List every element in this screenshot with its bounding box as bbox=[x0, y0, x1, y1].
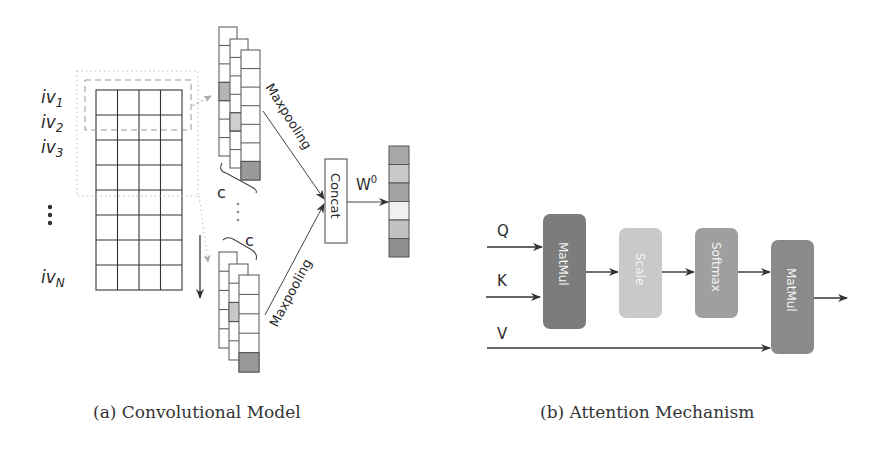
feature-map-3 bbox=[241, 50, 260, 180]
caption-b: (b) Attention Mechanism bbox=[540, 402, 754, 422]
input-label-q: Q bbox=[497, 222, 509, 240]
input-matrix-grid bbox=[96, 90, 182, 290]
caption-a: (a) Convolutional Model bbox=[93, 402, 301, 422]
convolutional-model-figure: iv1 iv2 iv3 ivN bbox=[41, 27, 409, 422]
dashed-window-arrow bbox=[192, 96, 211, 106]
filter-count-label-top: c bbox=[217, 183, 226, 202]
row-label-iv3: iv3 bbox=[41, 137, 63, 160]
input-label-k: K bbox=[497, 272, 508, 290]
filter-count-label-bottom: c bbox=[245, 231, 254, 250]
top-feature-maps bbox=[219, 27, 260, 180]
output-vector bbox=[389, 146, 409, 257]
row-label-ivN: ivN bbox=[41, 267, 65, 290]
filter-window-dashed bbox=[85, 80, 191, 130]
matmul-label-2: MatMul bbox=[784, 268, 798, 312]
attention-mechanism-figure: Q K V MatMul Scale Softmax MatMul (b) At… bbox=[486, 214, 847, 422]
softmax-label: Softmax bbox=[709, 242, 723, 292]
figure-canvas: iv1 iv2 iv3 ivN bbox=[0, 0, 876, 453]
concat-label: Concat bbox=[328, 173, 343, 218]
row-label-iv2: iv2 bbox=[41, 112, 63, 135]
maxpool-label-top: Maxpooling bbox=[262, 81, 314, 152]
row-labels: iv1 iv2 iv3 ivN bbox=[41, 87, 65, 290]
matmul-label-1: MatMul bbox=[556, 242, 570, 286]
scale-label: Scale bbox=[633, 253, 647, 285]
weight-label: W0 bbox=[356, 174, 377, 194]
vertical-ellipsis-icon bbox=[48, 205, 52, 225]
feature-map-ellipsis-icon bbox=[237, 203, 240, 222]
bottom-feature-maps bbox=[219, 252, 259, 372]
input-label-v: V bbox=[497, 325, 508, 343]
feature-map-3 bbox=[239, 275, 259, 372]
row-label-iv1: iv1 bbox=[41, 87, 63, 110]
